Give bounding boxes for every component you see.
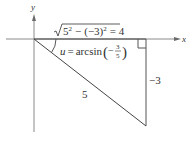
x-axis-label: x (181, 34, 186, 44)
svg-text:−: − (108, 45, 114, 56)
y-axis: y (30, 2, 36, 132)
hypotenuse-label: 5 (82, 88, 88, 100)
angle-label: u=arcsin ( − 3 5 ) (60, 43, 127, 61)
angle-arc (52, 39, 57, 53)
y-axis-label: y (30, 2, 35, 12)
opposite-side-label: −3 (149, 74, 161, 86)
adjacent-side-label: 52−(−3)2= 4 (54, 24, 125, 38)
svg-text:3: 3 (116, 43, 120, 51)
right-angle-marker (138, 39, 146, 48)
x-axis-arrow-icon (174, 37, 181, 41)
y-axis-arrow-icon (32, 14, 36, 21)
close-paren: ) (122, 44, 127, 61)
svg-text:u=arcsin: u=arcsin (60, 45, 102, 57)
svg-text:5: 5 (116, 52, 120, 60)
triangle-diagram: x y 52−(−3)2= 4 u=arcsin ( − 3 5 ) 5 −3 (0, 0, 186, 141)
svg-text:52−(−3)2= 4: 52−(−3)2= 4 (63, 25, 125, 38)
